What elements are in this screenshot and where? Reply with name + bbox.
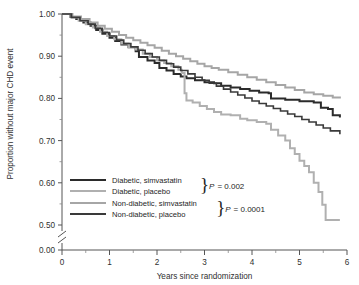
x-tick-label: 2 <box>155 258 160 267</box>
x-tick-label: 4 <box>250 258 255 267</box>
x-tick-label: 3 <box>202 258 207 267</box>
y-axis-title: Proportion without major CHD event <box>6 48 15 180</box>
legend-label: Diabetic, placebo <box>112 187 170 196</box>
y-tick-label: 1.00 <box>39 10 55 19</box>
x-tick-label: 6 <box>345 258 350 267</box>
x-tick-label: 5 <box>297 258 302 267</box>
y-tick-label: 0.70 <box>39 137 55 146</box>
y-tick-label: 0.80 <box>39 94 55 103</box>
legend-brace: } <box>200 174 209 195</box>
legend-label: Non-diabetic, placebo <box>112 210 185 219</box>
y-tick-label: 0.90 <box>39 52 55 61</box>
legend-label: Diabetic, simvastatin <box>112 176 182 185</box>
y-tick-label: 0.00 <box>39 246 55 255</box>
y-tick-label: 0.50 <box>39 221 55 230</box>
legend-label: Non-diabetic, simvastatin <box>112 199 197 208</box>
x-tick-label: 1 <box>107 258 112 267</box>
x-axis-title: Years since randomization <box>157 272 253 281</box>
legend-brace: } <box>216 197 225 218</box>
chart-canvas: 1.000.900.800.700.600.500.000123456 Diab… <box>0 0 359 285</box>
y-tick-label: 0.60 <box>39 179 55 188</box>
km-survival-figure: 1.000.900.800.700.600.500.000123456 Diab… <box>0 0 359 285</box>
x-tick-label: 0 <box>60 258 65 267</box>
